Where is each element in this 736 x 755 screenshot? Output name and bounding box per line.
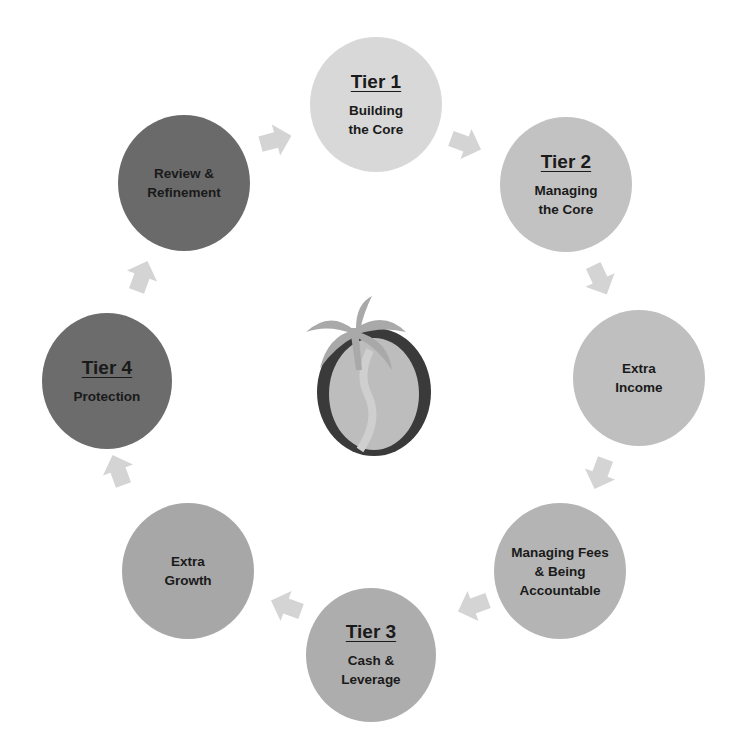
node-label: Building the Core	[349, 101, 404, 139]
node-tier-title: Tier 2	[541, 151, 591, 173]
flow-arrow-icon	[119, 253, 165, 299]
node-label: Review & Refinement	[147, 164, 221, 202]
node-extra-growth: Extra Growth	[122, 503, 254, 639]
flow-arrow-icon	[254, 118, 298, 162]
node-label: Cash & Leverage	[341, 651, 400, 689]
node-managing-fees: Managing Fees & Being Accountable	[494, 503, 626, 639]
node-tier2: Tier 2Managing the Core	[500, 117, 632, 252]
node-tier1: Tier 1Building the Core	[310, 37, 442, 172]
node-tier3: Tier 3Cash & Leverage	[306, 588, 436, 722]
node-tier-title: Tier 1	[351, 71, 401, 93]
node-label: Extra Income	[615, 359, 662, 397]
node-label: Protection	[74, 387, 141, 406]
node-review: Review & Refinement	[118, 115, 250, 251]
node-label: Managing the Core	[535, 181, 598, 219]
node-label: Managing Fees & Being Accountable	[511, 543, 609, 600]
node-extra-income: Extra Income	[573, 310, 705, 446]
node-tier-title: Tier 3	[346, 621, 396, 643]
node-tier4: Tier 4Protection	[42, 313, 172, 449]
node-label: Extra Growth	[164, 552, 211, 590]
flow-arrow-icon	[450, 583, 496, 629]
node-tier-title: Tier 4	[82, 357, 132, 379]
flow-arrow-icon	[443, 121, 489, 167]
flow-arrow-icon	[577, 451, 623, 497]
palm-tree-o-logo-icon	[300, 290, 440, 460]
flow-arrow-icon	[95, 447, 141, 493]
flow-arrow-icon	[576, 256, 624, 304]
flow-arrow-icon	[263, 583, 309, 629]
